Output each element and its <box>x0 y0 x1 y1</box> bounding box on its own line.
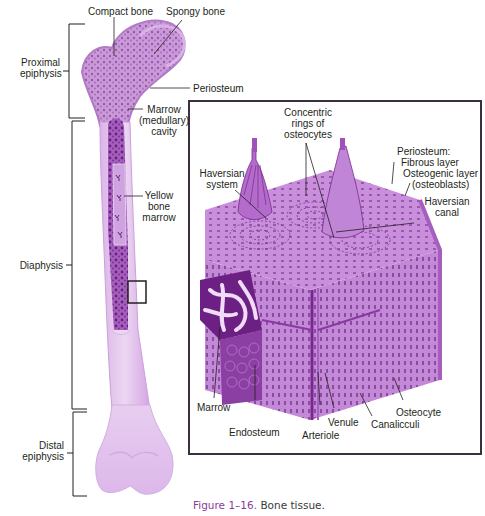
label-line: marrow <box>140 212 178 223</box>
label-spongy-bone: Spongy bone <box>166 6 225 17</box>
label-osteoblasts: (osteoblasts) <box>412 179 469 190</box>
label-arteriole: Arteriole <box>302 430 339 441</box>
label-line: system <box>196 179 248 190</box>
label-line: (medullary) <box>139 115 189 126</box>
label-line: bone <box>140 201 178 212</box>
label-osteocyte: Osteocyte <box>396 407 441 418</box>
label-marrow-medullary-cavity: Marrow (medullary) cavity <box>139 104 189 137</box>
label-line: canal <box>420 207 474 218</box>
distal-epiphysis-shape <box>96 405 173 494</box>
label-proximal-epiphysis: Proximal epiphysis <box>20 57 60 79</box>
label-haversian-system: Haversian system <box>196 168 248 190</box>
label-concentric-rings: Concentric rings of osteocytes <box>283 107 333 140</box>
label-line: Yellow <box>140 190 178 201</box>
label-line: epiphysis <box>20 451 64 462</box>
endosteum-region <box>220 330 262 405</box>
label-line: epiphysis <box>20 68 60 79</box>
label-line: Concentric <box>283 107 333 118</box>
label-yellow-bone-marrow: Yellow bone marrow <box>140 190 178 223</box>
label-fibrous-layer: Fibrous layer <box>401 157 459 168</box>
label-osteogenic-layer: Osteogenic layer <box>403 168 478 179</box>
label-haversian-canal: Haversian canal <box>420 196 474 218</box>
label-periosteum-header: Periosteum: <box>397 146 450 157</box>
label-endosteum: Endosteum <box>229 427 280 438</box>
region-brackets <box>63 24 87 496</box>
label-canaliculi: Canalicculi <box>371 419 419 430</box>
label-line: cavity <box>139 126 189 137</box>
label-line: Haversian <box>196 168 248 179</box>
figure-number: Figure 1–16. <box>193 499 257 511</box>
long-bone <box>82 21 185 495</box>
label-diaphysis: Diaphysis <box>10 260 63 271</box>
label-line: Marrow <box>139 104 189 115</box>
label-venule: Venule <box>328 417 359 428</box>
label-line: Haversian <box>420 196 474 207</box>
figure-title: Bone tissue. <box>260 499 325 511</box>
label-line: Proximal <box>20 57 60 68</box>
figure-caption: Figure 1–16. Bone tissue. <box>193 499 325 511</box>
label-compact-bone: Compact bone <box>88 6 153 17</box>
label-line: osteocytes <box>283 129 333 140</box>
label-line: rings of <box>283 118 333 129</box>
bone-tissue-diagram <box>0 0 485 516</box>
label-distal-epiphysis: Distal epiphysis <box>20 440 64 462</box>
label-line: Distal <box>20 440 64 451</box>
label-marrow: Marrow <box>197 402 230 413</box>
label-periosteum: Periosteum <box>193 83 244 94</box>
